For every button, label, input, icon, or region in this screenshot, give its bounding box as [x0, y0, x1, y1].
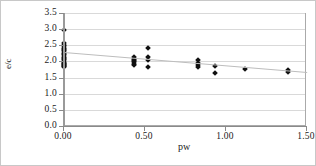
y-tick-label: 3.5 [21, 8, 57, 18]
y-tick-label: 0.0 [21, 121, 57, 131]
gridline [64, 110, 305, 111]
data-point [131, 54, 137, 60]
y-tick-mark [59, 110, 64, 111]
x-tick-label: 1.00 [203, 131, 247, 141]
data-point [196, 62, 202, 68]
y-tick-label: 0.5 [21, 105, 57, 115]
gridline [64, 29, 305, 30]
x-tick-mark [306, 126, 307, 131]
gridline [64, 61, 305, 62]
gridline [64, 45, 305, 46]
y-tick-mark [59, 78, 64, 79]
trend-line [64, 52, 307, 73]
y-tick-label: 1.5 [21, 73, 57, 83]
y-tick-mark [59, 29, 64, 30]
y-tick-label: 3.0 [21, 24, 57, 34]
data-points-layer [64, 14, 305, 125]
y-tick-mark [59, 45, 64, 46]
data-point [212, 63, 218, 69]
gridline [64, 94, 305, 95]
x-tick-mark [63, 126, 64, 131]
y-tick-mark [59, 61, 64, 62]
data-point [145, 54, 151, 60]
x-tick-mark [225, 126, 226, 131]
chart-figure: 0.00.51.01.52.02.53.03.5 0.000.501.001.5… [0, 0, 316, 166]
data-point [131, 62, 137, 68]
x-tick-label: 0.00 [41, 131, 85, 141]
data-point [285, 69, 291, 75]
x-axis-title: pw [1, 142, 315, 152]
y-tick-mark [59, 94, 64, 95]
plot-area [63, 13, 306, 126]
data-point [196, 64, 202, 70]
data-point [212, 70, 218, 76]
x-tick-label: 1.50 [284, 131, 316, 141]
y-tick-label: 1.0 [21, 89, 57, 99]
x-tick-mark [144, 126, 145, 131]
x-tick-label: 0.50 [122, 131, 166, 141]
x-axis-line [63, 126, 307, 127]
gridline [64, 13, 305, 14]
y-tick-mark [59, 13, 64, 14]
gridline [64, 78, 305, 79]
y-axis-title: e/c [4, 59, 13, 70]
y-tick-label: 2.0 [21, 56, 57, 66]
y-tick-label: 2.5 [21, 40, 57, 50]
data-point [285, 67, 291, 73]
trend-line-layer [64, 14, 305, 125]
data-point [243, 66, 249, 72]
data-point [145, 64, 151, 70]
